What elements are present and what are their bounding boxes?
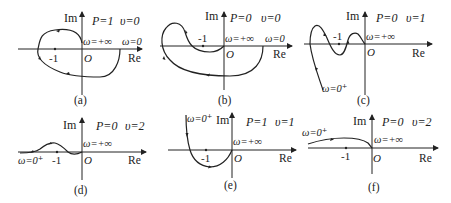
re-label: Re — [128, 154, 141, 166]
re-label: Re — [412, 47, 425, 59]
minus-one-point — [338, 43, 340, 45]
re-label: Re — [419, 152, 432, 164]
p-label: P=0 — [381, 115, 403, 129]
minus-one-point — [345, 147, 347, 149]
minus-one-label: -1 — [333, 30, 342, 42]
minus-one-point — [54, 48, 56, 50]
v-label: υ=2 — [125, 119, 145, 133]
im-label: Im — [346, 9, 360, 23]
omega-start-label: ω=0⁺ — [18, 155, 43, 166]
nyquist-plot-f: Im P=0 υ=2 ω=0⁺ ω=+∞ -1 O Re (f) — [300, 110, 451, 203]
direction-arrow — [208, 166, 212, 169]
p-label: P=1 — [91, 14, 113, 28]
minus-one-point — [205, 149, 207, 151]
v-label: υ=0 — [261, 11, 281, 25]
nyquist-plot-b: Im P=0 υ=0 -1 ω=+∞ ω=0 O Re (b) — [150, 0, 300, 110]
minus-one-label: -1 — [341, 150, 350, 162]
v-label: υ=1 — [406, 11, 426, 25]
direction-arrow — [185, 30, 188, 34]
v-label: υ=1 — [275, 115, 295, 129]
nyquist-plot-c: Im P=0 υ=1 -1 ω=+∞ O Re ω=0⁺ (c) — [300, 0, 451, 110]
minus-one-point — [202, 45, 204, 47]
omega-inf-label: ω=+∞ — [225, 33, 254, 44]
origin-label: O — [84, 52, 92, 64]
re-label: Re — [273, 48, 286, 60]
re-label: Re — [128, 52, 141, 64]
p-label: P=0 — [229, 11, 251, 25]
origin-label: O — [234, 152, 242, 164]
origin-label: O — [226, 48, 234, 60]
origin-label: O — [84, 154, 92, 166]
im-label: Im — [64, 11, 78, 25]
im-label: Im — [63, 118, 77, 132]
omega-start-label: ω=0⁺ — [302, 127, 327, 138]
im-label: Im — [216, 113, 230, 127]
omega-start-label: ω=0 — [122, 36, 142, 47]
omega-start-label: ω=0⁺ — [187, 113, 212, 124]
p-label: P=1 — [245, 115, 267, 129]
origin-label: O — [367, 46, 375, 58]
v-label: υ=2 — [412, 115, 432, 129]
direction-arrow — [206, 74, 210, 77]
omega-inf-label: ω=+∞ — [374, 134, 403, 145]
nyquist-plot-d: Im P=0 υ=2 ω=+∞ ω=0⁺ -1 O Re (d) — [0, 110, 150, 203]
nyquist-plot-e: ω=0⁺ Im P=1 υ=1 ω=+∞ -1 O Re (e) — [150, 110, 300, 203]
im-label: Im — [205, 9, 219, 23]
minus-one-point — [56, 151, 58, 153]
p-label: P=0 — [95, 119, 117, 133]
caption: (e) — [224, 179, 237, 192]
minus-one-label: -1 — [52, 154, 61, 166]
minus-one-label: -1 — [49, 52, 58, 64]
nyquist-curve — [162, 23, 263, 76]
minus-one-label: -1 — [201, 152, 210, 164]
caption: (b) — [218, 94, 232, 107]
nyquist-curve — [308, 138, 372, 148]
nyquist-curve — [20, 143, 82, 155]
omega-start-label: ω=0⁺ — [322, 83, 347, 94]
origin-label: O — [373, 152, 381, 164]
omega-inf-label: ω=+∞ — [233, 136, 262, 147]
re-label: Re — [279, 152, 292, 164]
v-label: υ=0 — [120, 14, 140, 28]
omega-inf-label: ω=+∞ — [83, 36, 112, 47]
nyquist-plot-a: Im P=1 υ=0 ω=+∞ ω=0 -1 O Re (a) — [0, 0, 150, 110]
omega-start-label: ω=0 — [265, 33, 285, 44]
caption: (a) — [74, 94, 87, 107]
direction-arrow — [163, 56, 166, 60]
im-label: Im — [353, 114, 367, 128]
caption: (c) — [357, 94, 370, 107]
minus-one-label: -1 — [198, 32, 207, 44]
p-label: P=0 — [375, 11, 397, 25]
direction-arrow — [186, 133, 189, 137]
caption: (f) — [368, 181, 380, 194]
caption: (d) — [74, 184, 88, 197]
omega-inf-label: ω=+∞ — [366, 31, 395, 42]
omega-inf-label: ω=+∞ — [83, 138, 112, 149]
